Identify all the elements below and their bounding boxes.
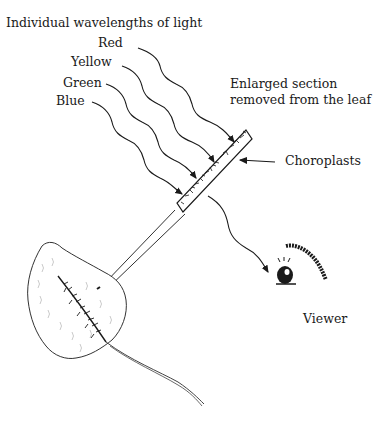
- chloroplast-pointer: [240, 160, 275, 162]
- wavelength-green-label: Green: [63, 77, 102, 90]
- yellow-ray: [122, 66, 214, 162]
- leaf: [28, 242, 204, 406]
- wavelength-blue-label: Blue: [56, 95, 85, 108]
- leaf-stem: [106, 342, 204, 404]
- green-ray: [106, 84, 196, 178]
- section-label-line2: removed from the leaf: [230, 94, 371, 107]
- title-label: Individual wavelengths of light: [6, 17, 202, 30]
- reflected-ray: [208, 196, 268, 272]
- chloroplast-label: Choroplasts: [285, 155, 361, 168]
- section-label-line1: Enlarged section: [230, 78, 337, 91]
- blue-ray: [92, 102, 182, 194]
- diagram-drawing: [0, 0, 376, 428]
- viewer-label: Viewer: [303, 313, 347, 326]
- leaf-light-diagram: Individual wavelengths of light Red Yell…: [0, 0, 376, 428]
- viewer-eye-icon: [276, 245, 326, 284]
- wavelength-yellow-label: Yellow: [71, 56, 112, 69]
- red-ray: [138, 48, 234, 142]
- wavelength-red-label: Red: [98, 37, 123, 50]
- magnification-lines: [103, 210, 185, 289]
